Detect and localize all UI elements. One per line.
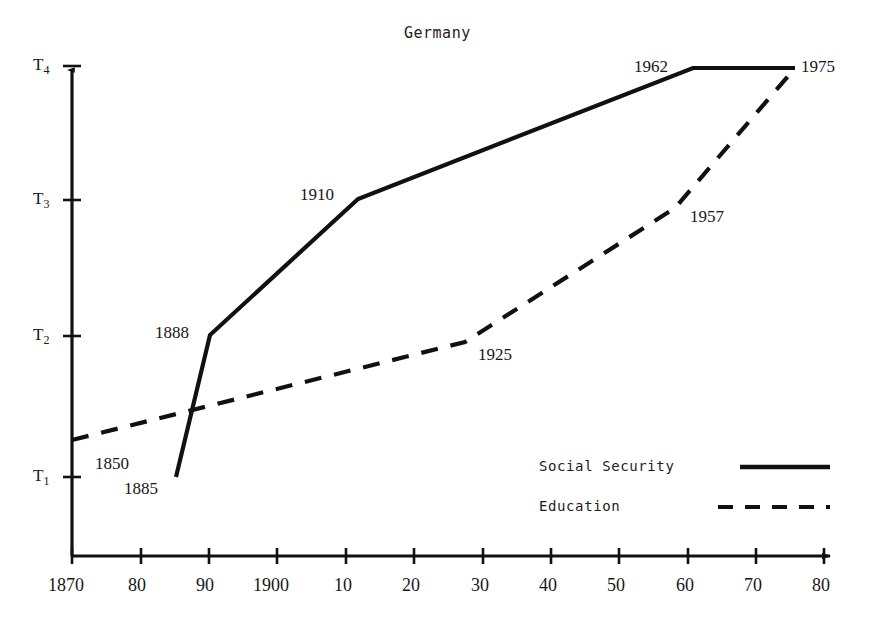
legend-label-social-security: Social Security — [539, 459, 674, 473]
x-tick-label-60: 60 — [676, 576, 694, 594]
x-tick-label-40: 40 — [539, 576, 557, 594]
y-tick-subscript-1: 1 — [43, 474, 49, 488]
data-label-1975: 1975 — [801, 58, 835, 75]
data-label-1885: 1885 — [124, 480, 158, 497]
x-tick-label-20: 20 — [402, 576, 420, 594]
y-tick-subscript-3: 3 — [43, 197, 49, 211]
y-tick-label-T2: T2 — [33, 326, 49, 346]
series-line-education — [72, 68, 795, 440]
x-tick-label-10: 10 — [334, 576, 352, 594]
data-label-1957: 1957 — [690, 208, 724, 225]
x-tick-label-90: 90 — [196, 576, 214, 594]
x-tick-label-70: 70 — [744, 576, 762, 594]
data-label-1910: 1910 — [300, 186, 334, 203]
x-tick-label-1870: 1870 — [48, 576, 84, 594]
legend-label-education: Education — [539, 499, 620, 513]
chart-plot-area — [0, 0, 879, 636]
data-label-1925: 1925 — [478, 346, 512, 363]
data-label-1962: 1962 — [634, 58, 668, 75]
y-tick-subscript-4: 4 — [43, 63, 49, 77]
x-tick-label-80-end: 80 — [812, 576, 830, 594]
data-label-1850: 1850 — [95, 455, 129, 472]
x-tick-label-30: 30 — [471, 576, 489, 594]
y-tick-subscript-2: 2 — [43, 333, 49, 347]
series-line-social-security — [176, 68, 795, 477]
x-tick-label-80: 80 — [128, 576, 146, 594]
chart-title: Germany — [404, 26, 471, 41]
x-tick-label-1900: 1900 — [253, 576, 289, 594]
data-label-1888: 1888 — [155, 324, 189, 341]
x-tick-label-50: 50 — [607, 576, 625, 594]
y-tick-label-T1: T1 — [33, 467, 49, 487]
chart-figure: Germany T1 T2 T3 T4 1870 80 90 1900 10 2… — [0, 0, 879, 636]
y-tick-label-T3: T3 — [33, 190, 49, 210]
y-tick-label-T4: T4 — [33, 56, 49, 76]
